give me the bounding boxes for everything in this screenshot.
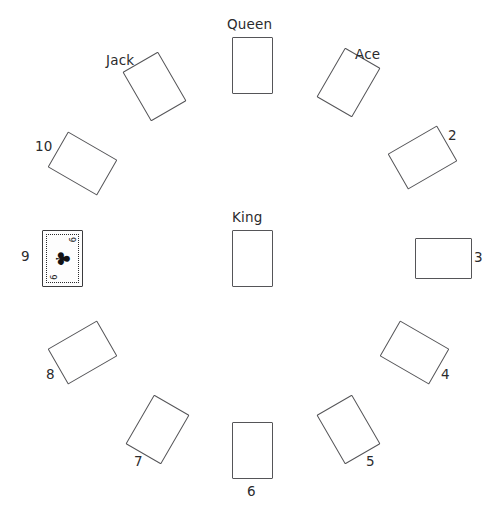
card-label-king: King (232, 211, 263, 225)
card-label-nine: 9 (21, 250, 30, 264)
card-queen[interactable] (232, 37, 273, 94)
card-two[interactable] (387, 125, 457, 189)
card-label-seven: 7 (134, 455, 143, 469)
card-three[interactable] (415, 238, 472, 279)
card-nine[interactable]: ♣99 (42, 230, 83, 287)
card-label-jack: Jack (106, 54, 134, 68)
card-label-two: 2 (448, 129, 457, 143)
card-label-eight: 8 (46, 368, 55, 382)
card-label-four: 4 (441, 368, 450, 382)
card-label-ten: 10 (35, 140, 53, 154)
club-suit-icon: ♣ (53, 249, 72, 266)
card-label-queen: Queen (227, 18, 272, 32)
card-king[interactable] (232, 230, 273, 287)
card-clock-canvas: QueenAce2345678♣99910JackKing (0, 0, 502, 513)
card-label-six: 6 (247, 485, 256, 499)
card-eight[interactable] (47, 320, 117, 384)
card-four[interactable] (379, 320, 449, 384)
card-six[interactable] (232, 422, 273, 479)
card-ten[interactable] (47, 131, 117, 195)
card-corner-rank-bottom: 9 (49, 274, 58, 279)
card-label-ace: Ace (355, 48, 380, 62)
card-label-three: 3 (474, 251, 483, 265)
card-corner-rank-top: 9 (67, 237, 76, 242)
card-label-five: 5 (366, 455, 375, 469)
